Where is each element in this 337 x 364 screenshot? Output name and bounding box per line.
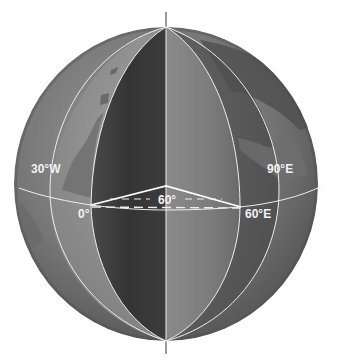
label-60e: 60°E xyxy=(245,207,271,221)
label-0: 0° xyxy=(78,207,90,221)
label-angle-60: 60° xyxy=(158,193,176,207)
globe-svg: 30°W 90°E 0° 60°E 60° xyxy=(0,0,337,364)
label-90e: 90°E xyxy=(267,162,293,176)
globe-diagram: 30°W 90°E 0° 60°E 60° xyxy=(0,0,337,364)
label-30w: 30°W xyxy=(31,162,61,176)
